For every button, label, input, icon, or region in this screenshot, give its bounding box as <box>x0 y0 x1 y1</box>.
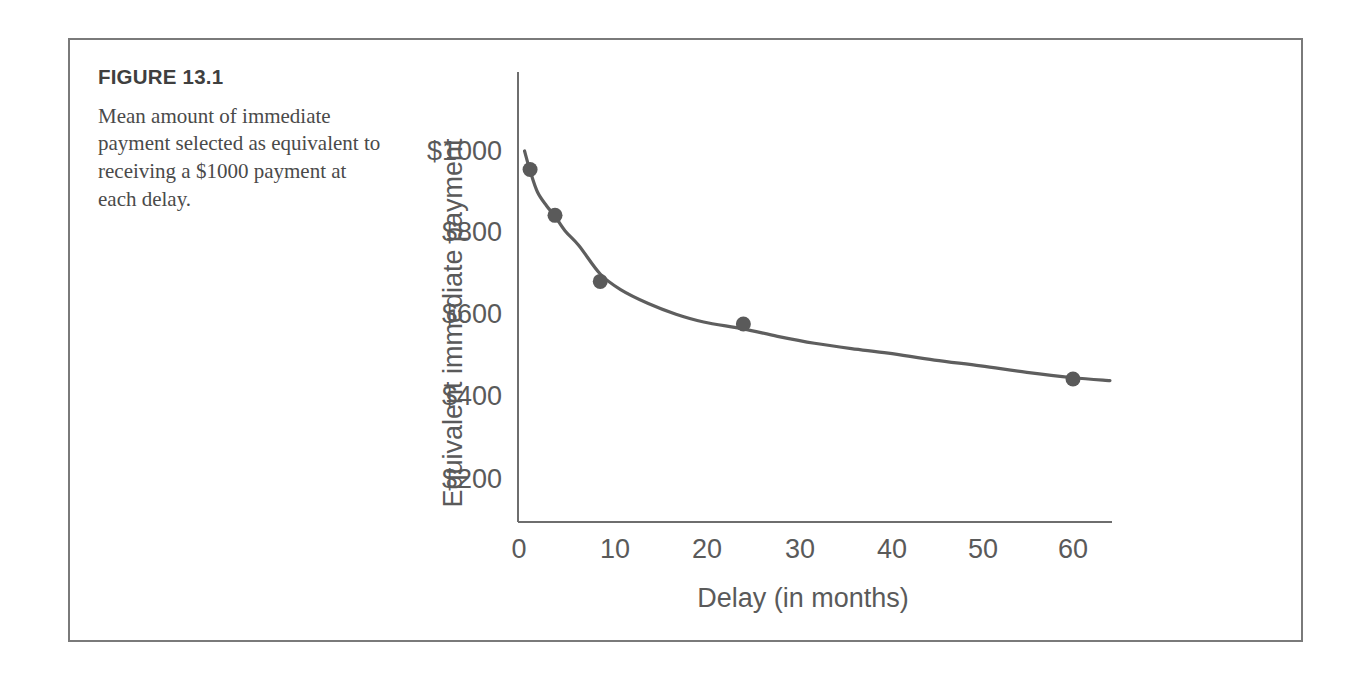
data-point <box>548 208 563 223</box>
discounting-fit-curve <box>525 151 1110 381</box>
x-axis-title: Delay (in months) <box>697 583 909 613</box>
data-points-group <box>523 162 1081 387</box>
x-tick-label-0: 0 <box>511 534 526 564</box>
chart-plot-area: $1000 $800 $600 $400 $200 0 10 20 30 40 … <box>70 40 1305 644</box>
discounting-curve-chart: $1000 $800 $600 $400 $200 0 10 20 30 40 … <box>70 40 1305 644</box>
x-tick-label-30: 30 <box>785 534 815 564</box>
x-tick-label-10: 10 <box>600 534 630 564</box>
y-axis-title: Equivalent immediate payment <box>438 138 468 508</box>
x-tick-label-20: 20 <box>692 534 722 564</box>
x-tick-label-50: 50 <box>968 534 998 564</box>
x-tick-label-40: 40 <box>877 534 907 564</box>
x-tick-label-60: 60 <box>1058 534 1088 564</box>
data-point <box>1066 371 1081 386</box>
figure-frame: FIGURE 13.1 Mean amount of immediate pay… <box>68 38 1303 642</box>
data-point <box>593 274 608 289</box>
data-point <box>523 162 538 177</box>
data-point <box>736 317 751 332</box>
